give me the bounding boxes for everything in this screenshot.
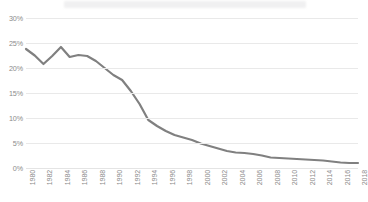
gridline — [26, 118, 358, 119]
y-axis-tick-label: 25% — [0, 39, 23, 48]
gridline — [26, 93, 358, 94]
y-axis-labels: 30%25%20%15%10%5%0% — [0, 18, 23, 168]
x-axis-baseline — [26, 168, 358, 169]
x-axis-tick-label: 1984 — [64, 170, 71, 185]
x-axis-tick-label: 1992 — [134, 170, 141, 185]
gridline — [26, 68, 358, 69]
y-axis-tick-label: 0% — [0, 164, 23, 173]
y-axis-tick-label: 5% — [0, 139, 23, 148]
x-axis-tick-label: 2014 — [326, 170, 333, 185]
x-axis-tick-label: 2016 — [344, 170, 351, 185]
x-axis-tick-label: 1998 — [186, 170, 193, 185]
x-axis-tick-label: 2004 — [239, 170, 246, 185]
series-path-line — [26, 47, 358, 163]
x-axis-tick-label: 2002 — [221, 170, 228, 185]
gridline — [26, 43, 358, 44]
x-axis-tick-label: 2012 — [309, 170, 316, 185]
y-axis-tick-label: 15% — [0, 89, 23, 98]
gridline — [26, 143, 358, 144]
y-axis-tick-label: 20% — [0, 64, 23, 73]
y-axis-tick-label: 10% — [0, 114, 23, 123]
x-axis-tick-label: 2018 — [361, 170, 368, 185]
x-axis-tick-label: 1980 — [29, 170, 36, 185]
redacted-title-bar — [64, 1, 306, 8]
x-axis-tick-label: 2010 — [291, 170, 298, 185]
gridline — [26, 18, 358, 19]
x-axis-tick-label: 2000 — [204, 170, 211, 185]
y-axis-tick-label: 30% — [0, 14, 23, 23]
x-axis-labels: 1980198219841986198819901992199419961998… — [26, 170, 358, 202]
x-axis-tick-label: 1996 — [169, 170, 176, 185]
x-axis-tick-label: 2006 — [256, 170, 263, 185]
plot-area — [26, 18, 358, 168]
x-axis-tick-label: 1994 — [151, 170, 158, 185]
x-axis-tick-label: 1986 — [81, 170, 88, 185]
x-axis-tick-label: 1982 — [46, 170, 53, 185]
x-axis-tick-label: 1988 — [99, 170, 106, 185]
x-axis-tick-label: 1990 — [116, 170, 123, 185]
x-axis-tick-label: 2008 — [274, 170, 281, 185]
